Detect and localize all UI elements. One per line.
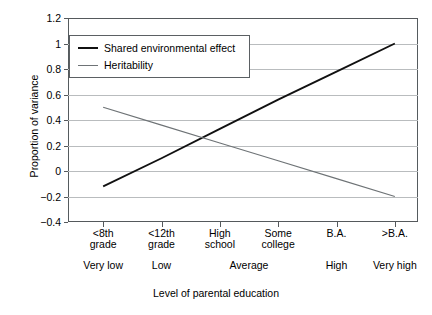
legend-swatch-icon-light — [78, 65, 98, 66]
x-band-label: Very low — [83, 259, 123, 271]
legend-label: Heritability — [104, 60, 153, 71]
legend-label: Shared environmental effect — [104, 43, 235, 54]
x-band-label: Average — [230, 259, 269, 271]
y-tick-label: 0.8 — [46, 63, 61, 75]
x-tick-label: school — [205, 239, 235, 251]
chart-figure: Proportion of variance 1.210.80.60.40.20… — [0, 0, 432, 315]
y-tick-label: 0 — [55, 165, 61, 177]
plot-area: 1.210.80.60.40.20−0.2−0.4 Shared environ… — [68, 18, 418, 222]
y-tick-label: 0.6 — [46, 89, 61, 101]
x-band-label: High — [326, 259, 348, 271]
x-axis-title: Level of parental education — [0, 287, 432, 299]
x-tick-label: college — [262, 239, 295, 251]
y-tick-label: 0.4 — [46, 114, 61, 126]
legend-item-shared-environmental-effect: Shared environmental effect — [78, 40, 235, 56]
x-tick-label: grade — [148, 239, 175, 251]
y-tick-label: −0.2 — [40, 191, 61, 203]
y-tick-mark — [64, 222, 68, 223]
y-axis-title: Proportion of variance — [28, 26, 40, 226]
chart-legend: Shared environmental effect Heritability — [69, 35, 250, 78]
legend-swatch-icon-dark — [78, 47, 98, 49]
x-tick-label: grade — [90, 239, 117, 251]
y-tick-label: −0.4 — [40, 216, 61, 228]
y-tick-label: 1.2 — [46, 12, 61, 24]
x-tick-label: >B.A. — [382, 228, 408, 240]
legend-item-heritability: Heritability — [78, 57, 153, 73]
series-line-heritability — [103, 107, 395, 196]
x-band-label: Low — [152, 259, 171, 271]
y-tick-label: 0.2 — [46, 140, 61, 152]
y-tick-label: 1 — [55, 38, 61, 50]
x-band-label: Very high — [373, 259, 417, 271]
x-tick-label: B.A. — [327, 228, 347, 240]
